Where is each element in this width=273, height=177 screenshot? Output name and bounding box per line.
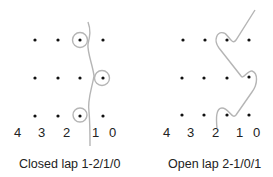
needle-label: 2 bbox=[212, 125, 219, 140]
caption-open-lap: Open lap 2-1/0/1 bbox=[168, 157, 261, 171]
open-lap-diagram: 4 3 2 1 0 Open lap 2-1/0/1 bbox=[163, 10, 261, 171]
closed-lap-diagram: 4 3 2 1 0 Closed lap 1-2/1/0 bbox=[14, 22, 121, 171]
needle-label: 3 bbox=[38, 125, 45, 140]
needle-label: 1 bbox=[92, 125, 99, 140]
yarn-path bbox=[216, 10, 256, 128]
caption-closed-lap: Closed lap 1-2/1/0 bbox=[19, 157, 121, 171]
needle-label: 0 bbox=[109, 125, 116, 140]
lapping-diagrams: 4 3 2 1 0 Closed lap 1-2/1/0 4 3 2 1 0 O… bbox=[0, 0, 273, 177]
needle-label: 2 bbox=[63, 125, 70, 140]
needle-label: 0 bbox=[253, 125, 260, 140]
needle-label: 4 bbox=[163, 125, 170, 140]
dot-grid bbox=[180, 38, 250, 116]
needle-label: 1 bbox=[236, 125, 243, 140]
needle-label: 3 bbox=[187, 125, 194, 140]
needle-label: 4 bbox=[14, 125, 21, 140]
